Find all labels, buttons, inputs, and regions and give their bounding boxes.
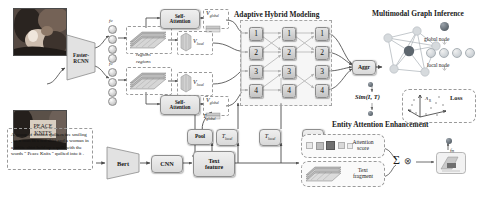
attention-swatch: [326, 141, 335, 150]
caption-text: A group of women quilters are smiling , …: [11, 132, 89, 156]
multimodal-graph-inference-title: Multimodal Graph Inference: [372, 9, 464, 18]
fc-node: [108, 88, 117, 97]
bert-block: Bert: [106, 146, 140, 180]
v-global-label-top: Vglobal: [206, 10, 219, 18]
fc-label-bottom: fc: [109, 61, 113, 66]
v-local-tensor-bottom: [180, 74, 192, 92]
attention-score-label: Attention score: [345, 136, 381, 154]
v-global-label-bottom: Vglobal: [206, 97, 219, 105]
legend-local-node-swatch: [426, 48, 436, 58]
v-global-bar-top: [206, 18, 220, 24]
grid-node-c3-r1: 1: [315, 27, 329, 41]
v-global-bar-bottom: [206, 105, 220, 111]
v-local-subscript: local: [197, 83, 204, 87]
t-local-subscript: local: [268, 137, 275, 141]
v-local-label-bottom: Vlocal: [193, 79, 204, 87]
input-image-top: [13, 8, 67, 56]
grid-node-c3-r2: 2: [315, 46, 329, 60]
grid-node-c1-r4: 4: [249, 84, 263, 98]
fc-stack-top: [108, 25, 117, 63]
pool-block: Pool: [187, 129, 213, 145]
cnn-block: CNN: [151, 155, 183, 173]
v-global-subscript: global: [210, 14, 219, 18]
grid-node-c2-r2: 2: [282, 46, 296, 60]
cnn-label: CNN: [160, 161, 173, 167]
loss-plot: A R: [406, 91, 448, 119]
text-fragment-label: Text fragment: [345, 164, 381, 182]
grid-node-c2-r1: 1: [282, 27, 296, 41]
faster-rcnn-label-line2: RCNN: [73, 58, 88, 64]
faster-rcnn-block: Faster- RCNN: [66, 34, 96, 81]
svg-text:R: R: [429, 99, 432, 103]
grid-node-c2-r3: 3: [282, 65, 296, 79]
legend-global-node-swatch: [440, 22, 449, 31]
fc-node: [108, 35, 117, 44]
summation-symbol: Σ: [393, 153, 400, 168]
t-global-subscript: global: [206, 117, 215, 121]
loss-label: Loss: [450, 94, 462, 101]
text-fragment-label-line2: fragment: [353, 173, 373, 179]
legend-local-node-label: local node: [427, 62, 449, 68]
legend-local-node-swatches: [426, 48, 475, 58]
fc-node: [108, 68, 117, 77]
fc-node: [108, 78, 117, 87]
legend-local-node-swatch: [465, 48, 475, 58]
faster-rcnn-label: Faster- RCNN: [66, 48, 96, 68]
sim-node-bottom: [368, 111, 373, 116]
attention-swatch: [306, 142, 313, 149]
text-fragment-stack: [305, 164, 343, 182]
grid-node-c1-r1: 1: [249, 27, 263, 41]
regions-stack-bottom: [128, 69, 168, 91]
grid-node-c1-r3: 3: [249, 65, 263, 79]
similarity-label: Sim(I, T): [355, 93, 380, 100]
v-global-subscript: global: [210, 101, 219, 105]
caption-box: A group of women quilters are smiling , …: [7, 128, 93, 170]
legend-local-node-swatch: [452, 48, 462, 58]
tensor-product-symbol: ⊗: [404, 156, 412, 166]
fc-node: [108, 25, 117, 34]
regions-label-top: regions: [136, 52, 151, 57]
v-local-label-top: Vlocal: [193, 38, 204, 46]
legend-global-node-label: global node: [424, 36, 449, 42]
adaptive-hybrid-modeling-title: Adaptive Hybrid Modeling: [234, 10, 319, 19]
self-attention-top: Self- Attention: [160, 9, 200, 29]
bert-label: Bert: [106, 158, 140, 168]
t-local-block-1: Tlocal: [216, 129, 238, 146]
self-attention-label-line2: Attention: [169, 19, 190, 24]
t-global-label: Tglobal: [203, 113, 216, 121]
text-feature-block: Text feature: [193, 151, 235, 177]
figure-canvas: PEACE KNITS Faster- RCNN fc fc: [0, 0, 478, 204]
grid-node-c2-r4: 4: [282, 84, 296, 98]
grid-node-c3-r4: 4: [315, 84, 329, 98]
t-local-subscript: local: [225, 137, 232, 141]
entity-attention-enhancement-title: Entity Attention Enhancement: [332, 120, 429, 129]
grid-node-c3-r3: 3: [315, 65, 329, 79]
attention-swatch: [338, 142, 345, 149]
regions-stack-top: [128, 28, 168, 50]
grid-node-c1-r2: 2: [249, 46, 263, 60]
text-feature-label-line2: feature: [205, 164, 223, 170]
pool-label: Pool: [195, 134, 205, 140]
fc-node: [108, 45, 117, 54]
sim-node-top: [368, 82, 373, 87]
regions-label-bottom: regions: [136, 59, 151, 64]
output-thumbnail: [436, 152, 466, 174]
fn-node: [446, 138, 452, 144]
v-local-subscript: local: [197, 42, 204, 46]
attention-score-label-line2: score: [357, 145, 369, 151]
attention-swatch: [316, 142, 324, 150]
self-attention-bottom: Self- Attention: [160, 95, 200, 115]
fc-stack-bottom: [108, 68, 117, 106]
fc-node: [108, 97, 117, 106]
v-local-tensor-top: [180, 33, 192, 51]
aggregation-box: Aggr: [352, 60, 376, 75]
aggregation-label: Aggr: [358, 65, 370, 71]
t-local-block-2: Tlocal: [259, 129, 281, 146]
self-attention-label-line2: Attention: [169, 105, 190, 110]
fc-label-top: fc: [109, 18, 113, 23]
